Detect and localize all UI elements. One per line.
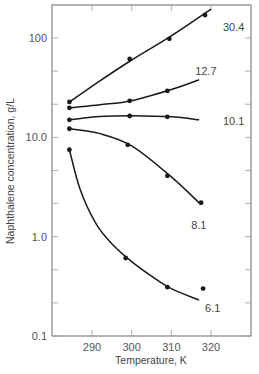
series-curve-10.1 [69,116,199,120]
x-axis-ticks: 290300310320 [83,5,220,353]
data-point [199,200,204,205]
series-curve-6.1 [69,150,199,300]
x-tick-label: 290 [83,341,101,353]
y-tick-label: 100 [29,32,47,44]
series-curve-12.7 [69,80,199,108]
series-label-6.1: 6.1 [205,302,220,314]
data-point [67,100,72,105]
y-axis-ticks: 0.11.010.0100 [26,32,251,342]
data-point [67,126,72,131]
data-point [165,173,170,178]
data-point [67,105,72,110]
data-point [127,98,132,103]
series-labels: 30.412.710.18.16.1 [191,21,244,315]
x-tick-label: 310 [162,341,180,353]
x-tick-label: 300 [122,341,140,353]
series-label-12.7: 12.7 [195,65,216,77]
y-tick-label: 0.1 [32,330,47,342]
data-point [167,36,172,41]
y-tick-label: 1.0 [32,231,47,243]
series-curves [69,9,211,300]
y-axis-label: Naphthalene concentration, g/L [4,98,16,244]
x-axis-label: Temperature, K [115,354,187,366]
data-point [123,256,128,261]
data-point [203,13,208,18]
series-label-30.4: 30.4 [223,21,244,33]
data-point [67,117,72,122]
data-point [201,286,206,291]
series-label-8.1: 8.1 [191,219,206,231]
data-point [67,147,72,152]
data-point [127,114,132,119]
data-point [127,57,132,62]
series-label-10.1: 10.1 [223,115,244,127]
data-point [165,114,170,119]
axes-box [52,5,251,336]
data-point [125,142,130,147]
series-curve-30.4 [69,9,211,102]
y-tick-label: 10.0 [26,131,47,143]
naphthalene-concentration-chart: 290300310320 0.11.010.0100 30.412.710.18… [0,0,259,374]
x-tick-label: 320 [202,341,220,353]
data-point [165,285,170,290]
series-curve-8.1 [69,129,201,205]
data-points [67,13,207,291]
plot-frame [52,5,251,336]
data-point [165,89,170,94]
